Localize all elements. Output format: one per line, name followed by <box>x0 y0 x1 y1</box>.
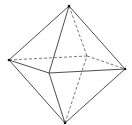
octahedron-diagram <box>0 0 132 125</box>
edge-front-right <box>49 69 125 73</box>
edge-top-front <box>49 6 69 73</box>
edge-top-back-hidden <box>69 6 87 56</box>
vertex-left <box>8 59 11 62</box>
vertex-right <box>124 68 127 71</box>
edge-left-back-hidden <box>9 56 87 60</box>
edge-bottom-front <box>49 73 65 123</box>
edge-top-left <box>9 6 69 60</box>
vertex-bottom <box>64 122 67 125</box>
edges-group <box>9 6 125 123</box>
vertices-group <box>8 5 127 125</box>
edge-bottom-right <box>65 69 125 123</box>
vertex-top <box>68 5 71 8</box>
